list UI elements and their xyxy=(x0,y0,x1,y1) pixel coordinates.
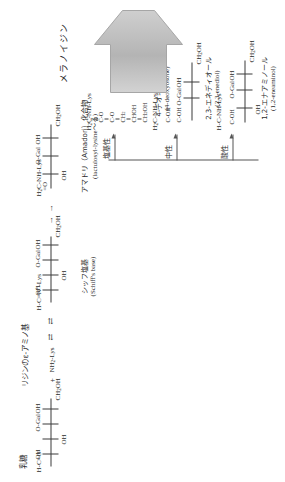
bond-tick xyxy=(236,89,252,90)
bond-tick xyxy=(42,453,58,454)
schiff-oh-3: OH xyxy=(33,239,41,249)
enediol-bottom-group: CH2OH xyxy=(194,42,202,64)
backbone-line xyxy=(191,62,192,120)
branch-arrow-basic xyxy=(114,134,115,160)
bond-link xyxy=(137,118,141,119)
bond-tick xyxy=(42,244,58,245)
amadori-carbonyl: =O xyxy=(40,182,47,190)
label-melanoidin: メラノイジン xyxy=(56,22,69,82)
branch-label-acidic: 酸性 xyxy=(218,144,228,158)
bond-tick xyxy=(42,408,58,409)
arrow-to-amadori-2: → xyxy=(45,204,54,212)
backbone-line xyxy=(244,60,245,122)
lactose-oh-1: OH xyxy=(33,449,41,459)
branch-arrow-acidic xyxy=(232,134,233,160)
amadori-bottom-group: CH2OH xyxy=(53,104,61,126)
deoxyosone-c3: CH2 xyxy=(118,111,126,122)
branch-trunk xyxy=(108,159,258,160)
deoxyosone-c2: C-O xyxy=(107,111,114,122)
bond-tick xyxy=(183,81,199,82)
bond-tick xyxy=(42,438,58,439)
branch-label-neutral: 中性 xyxy=(162,144,172,158)
deoxyosone-c1: C-O xyxy=(96,111,103,122)
bond-tick xyxy=(236,107,252,108)
bond-tick xyxy=(42,274,58,275)
enediol-c-oh-2: C-OH xyxy=(174,107,181,122)
bond-tick xyxy=(42,289,58,290)
caption-enediol: 2,3-エネディオール (2,3-enediol) xyxy=(202,42,220,134)
schiff-oh-1: OH xyxy=(33,285,41,295)
schiff-ogal: O-Gal xyxy=(33,250,41,268)
caption-schiff-base: シッフ塩基 (Schiff's base) xyxy=(78,236,96,316)
amadori-oh-1: OH xyxy=(59,170,67,180)
lactose-ogal: O-Gal xyxy=(33,414,41,432)
deoxyosone-top-group: H2C-NH-Lys xyxy=(84,93,92,130)
arrow-to-amadori-1: → xyxy=(45,216,54,224)
lactose-oh-2: OH xyxy=(59,434,67,444)
schiff-oh-2: OH xyxy=(59,270,67,280)
caption-eneaminol: 1,2-エナアミノール (1,2-eneaminol) xyxy=(258,42,276,134)
bond-link xyxy=(115,118,119,119)
diagram-canvas: 乳糖 H-C=O OH OH O-Gal OH CH2OHCH2OH + NH2… xyxy=(0,0,285,482)
amadori-oh-2: OH xyxy=(33,134,41,144)
eneaminol-ogal: O-Gal xyxy=(227,81,235,99)
equilibrium-arrow-1: ⇄ xyxy=(45,333,54,340)
bond-tick xyxy=(236,73,252,74)
figure-root: 乳糖 H-C=O OH OH O-Gal OH CH2OHCH2OH + NH2… xyxy=(0,0,285,482)
branch-label-basic: 塩基性 xyxy=(100,137,110,158)
melanoidin-arrow xyxy=(92,8,184,94)
equilibrium-arrow-2: ⇄ xyxy=(45,317,54,324)
amine-group-formula: NH2-Lys xyxy=(47,347,55,372)
bond-tick xyxy=(42,173,58,174)
lactose-oh-3: OH xyxy=(33,403,41,413)
amadori-ogal: O-Gal xyxy=(33,147,41,165)
branch-arrow-neutral xyxy=(176,134,177,160)
bond-tick xyxy=(183,97,199,98)
bond-link xyxy=(104,118,108,119)
bond-tick xyxy=(42,155,58,156)
label-lactose: 乳糖 xyxy=(16,454,27,468)
bond-tick xyxy=(42,137,58,138)
bond-link xyxy=(93,118,97,119)
eneaminol-oh-2: OH xyxy=(227,70,235,80)
eneaminol-c-oh: C-OH xyxy=(227,109,234,124)
label-lysine-amino-group: リジンのε-アミノ基 xyxy=(18,323,29,386)
bond-tick xyxy=(42,259,58,260)
backbone-line xyxy=(50,236,51,302)
plus-sign: + xyxy=(47,377,56,382)
eneaminol-bottom-group: CH2OH xyxy=(247,40,255,62)
bond-tick xyxy=(42,423,58,424)
bond-link xyxy=(126,118,130,119)
